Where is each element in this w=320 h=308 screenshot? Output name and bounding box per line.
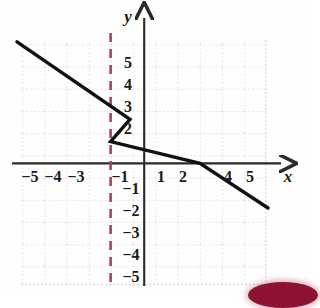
y-tick-neg2: −2 [122, 202, 139, 219]
x-tick-labels-negative: −5 −4 −3 −1 [21, 168, 128, 185]
y-tick-5: 5 [124, 54, 132, 71]
x-tick-neg1: −1 [111, 168, 128, 185]
x-tick-2: 2 [179, 168, 187, 185]
x-tick-neg3: −3 [67, 168, 84, 185]
x-tick-5: 5 [246, 168, 254, 185]
y-tick-neg4: −4 [122, 246, 139, 263]
y-tick-2: 2 [124, 120, 132, 137]
y-tick-3: 3 [124, 98, 132, 115]
y-tick-neg5: −5 [122, 268, 139, 285]
x-tick-4: 4 [224, 168, 232, 185]
y-tick-labels-negative: −1 −2 −3 −4 −5 [122, 180, 139, 285]
x-tick-neg5: −5 [21, 168, 38, 185]
y-axis-label: y [122, 7, 132, 26]
y-tick-4: 4 [124, 76, 132, 93]
corner-red-ellipse-decoration [248, 282, 318, 308]
y-tick-neg3: −3 [122, 224, 139, 241]
x-tick-neg4: −4 [44, 168, 61, 185]
x-axis-label: x [283, 167, 293, 186]
x-tick-1: 1 [157, 168, 165, 185]
